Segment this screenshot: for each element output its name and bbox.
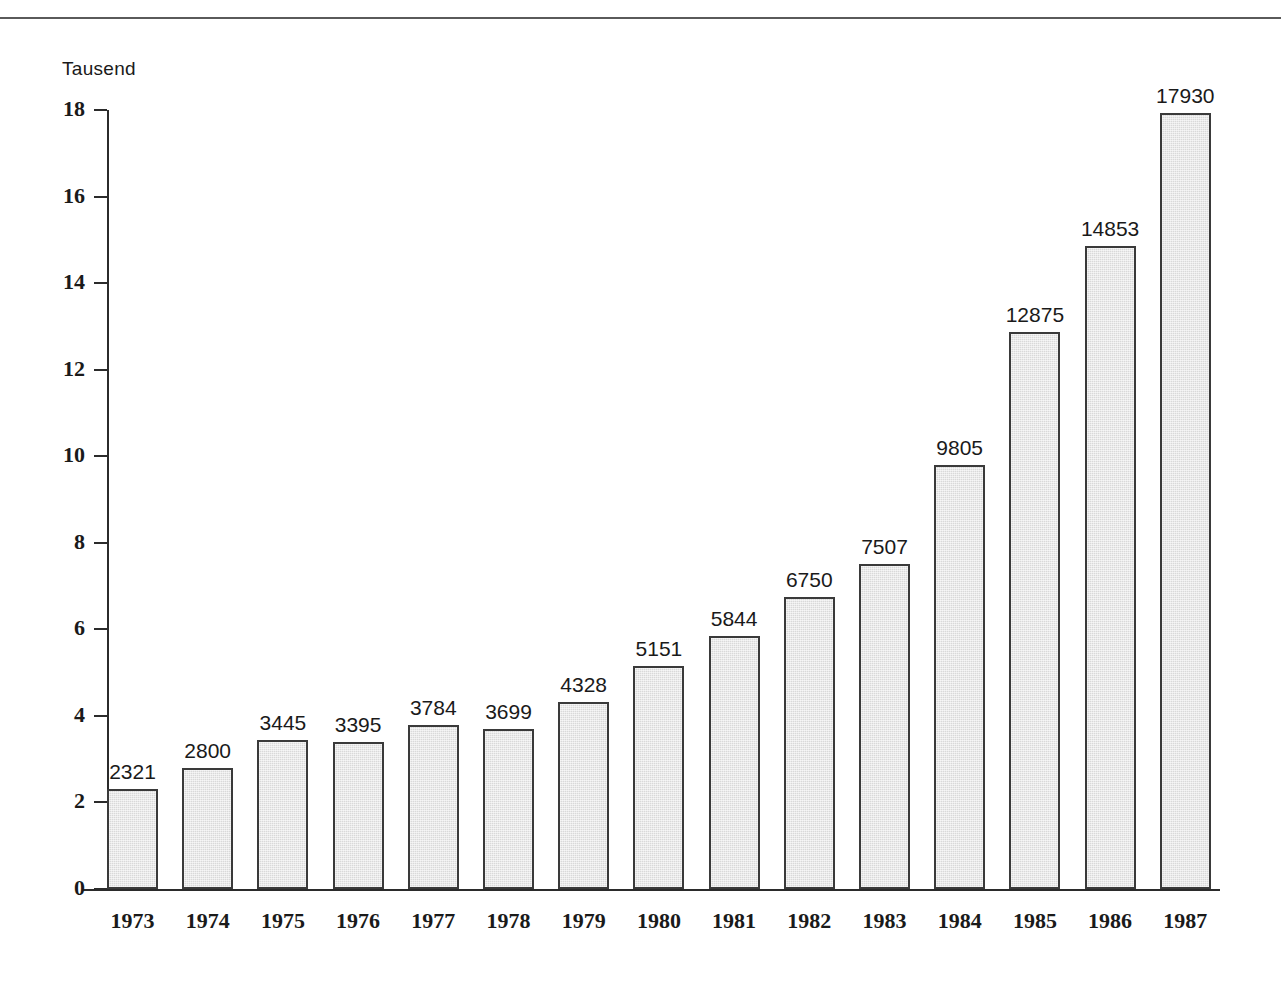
y-axis-tick-label: 6: [45, 615, 85, 641]
bar: [1160, 113, 1211, 889]
bar: [709, 636, 760, 889]
bar: [483, 729, 534, 889]
chart-page: Tausend 024681012141618 2321280034453395…: [0, 0, 1281, 984]
x-axis-category-label: 1980: [619, 908, 699, 934]
y-axis-tick-label: 12: [45, 356, 85, 382]
bar-value-label: 5151: [609, 637, 709, 661]
bar-value-label: 6750: [759, 568, 859, 592]
x-axis-category-label: 1973: [93, 908, 173, 934]
y-axis-tick-mark: [94, 282, 107, 284]
x-axis-category-label: 1983: [845, 908, 925, 934]
bar: [333, 742, 384, 889]
y-axis-tick-mark: [94, 888, 107, 890]
bar-value-label: 2800: [158, 739, 258, 763]
bar-value-label: 9805: [910, 436, 1010, 460]
x-axis-category-label: 1979: [544, 908, 624, 934]
y-axis-tick-label: 18: [45, 96, 85, 122]
y-axis-tick-mark: [94, 109, 107, 111]
bar: [408, 725, 459, 889]
x-axis-category-label: 1976: [318, 908, 398, 934]
bar-value-label: 2321: [83, 760, 183, 784]
bar: [934, 465, 985, 889]
bar: [1009, 332, 1060, 889]
x-axis-category-label: 1986: [1070, 908, 1150, 934]
bar: [182, 768, 233, 889]
bar-value-label: 3699: [459, 700, 559, 724]
y-axis-tick-label: 10: [45, 442, 85, 468]
y-axis-tick-mark: [94, 542, 107, 544]
x-axis-category-label: 1974: [168, 908, 248, 934]
y-axis-tick-label: 8: [45, 529, 85, 555]
y-axis-tick-label: 14: [45, 269, 85, 295]
y-axis-tick-mark: [94, 455, 107, 457]
x-axis-category-label: 1981: [694, 908, 774, 934]
bar: [558, 702, 609, 889]
y-axis-tick-label: 4: [45, 702, 85, 728]
bar: [257, 740, 308, 889]
bar: [784, 597, 835, 889]
x-axis-category-label: 1977: [393, 908, 473, 934]
bar: [633, 666, 684, 889]
y-axis-tick-label: 16: [45, 183, 85, 209]
bar-value-label: 14853: [1060, 217, 1160, 241]
y-axis-tick-label: 0: [45, 875, 85, 901]
bar-value-label: 7507: [835, 535, 935, 559]
bar: [859, 564, 910, 889]
x-axis-category-label: 1978: [469, 908, 549, 934]
y-axis-tick-mark: [94, 801, 107, 803]
x-axis-category-label: 1985: [995, 908, 1075, 934]
x-axis-category-label: 1987: [1145, 908, 1225, 934]
bar-value-label: 17930: [1135, 84, 1235, 108]
x-axis-category-label: 1975: [243, 908, 323, 934]
x-axis-category-label: 1984: [920, 908, 1000, 934]
y-axis-tick-mark: [94, 369, 107, 371]
bar: [107, 789, 158, 889]
x-axis-line: [82, 889, 1220, 891]
bar-value-label: 12875: [985, 303, 1085, 327]
y-axis-tick-mark: [94, 628, 107, 630]
x-axis-category-label: 1982: [769, 908, 849, 934]
y-axis-tick-mark: [94, 715, 107, 717]
y-axis-tick-mark: [94, 196, 107, 198]
bar-chart-plot-area: 024681012141618 232128003445339537843699…: [0, 0, 1281, 984]
bar-value-label: 5844: [684, 607, 784, 631]
bar: [1085, 246, 1136, 889]
bar-value-label: 4328: [534, 673, 634, 697]
y-axis-tick-label: 2: [45, 788, 85, 814]
